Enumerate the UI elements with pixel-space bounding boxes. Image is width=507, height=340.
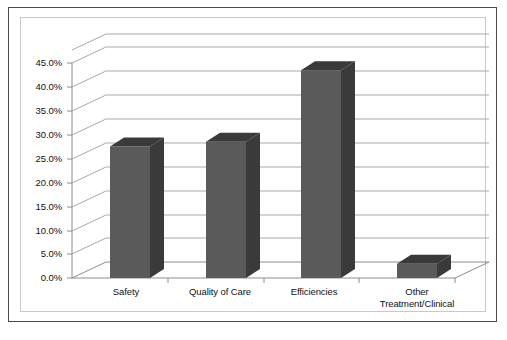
gridline-40	[72, 71, 489, 87]
gridline-35	[72, 95, 489, 111]
x-label-other-line2: Treatment/Clinical	[358, 298, 476, 310]
y-tick-label-5: 5.0%	[10, 248, 62, 259]
gridline-30	[72, 119, 489, 135]
bar-safety[interactable]	[110, 138, 164, 278]
x-label-other-treatment-clinical: Other Treatment/Clinical	[358, 286, 476, 309]
x-label-safety: Safety	[84, 286, 168, 298]
y-tick-label-0: 0.0%	[10, 272, 62, 283]
x-label-efficiencies-line1: Efficiencies	[272, 286, 356, 298]
bar-efficiencies[interactable]	[301, 61, 355, 278]
y-tick-label-10: 10.0%	[10, 225, 62, 236]
gridline-45	[72, 47, 489, 63]
bar-other-treatment-clinical[interactable]	[397, 255, 451, 278]
x-label-other-line1: Other	[358, 286, 476, 298]
bar-series	[110, 61, 451, 278]
x-axis-ticks	[168, 278, 455, 283]
y-tick-label-35: 35.0%	[10, 105, 62, 116]
y-axis-ticks	[67, 63, 72, 278]
y-tick-label-25: 25.0%	[10, 153, 62, 164]
y-tick-label-30: 30.0%	[10, 129, 62, 140]
x-label-quality-of-care-line1: Quality of Care	[174, 286, 266, 298]
x-label-efficiencies: Efficiencies	[272, 286, 356, 298]
gridline-top	[72, 34, 489, 50]
chart-plot-area: 45.0% 40.0% 35.0% 30.0% 25.0% 20.0% 15.0…	[0, 0, 507, 340]
y-tick-label-45: 45.0%	[10, 57, 62, 68]
bar-quality-of-care[interactable]	[206, 133, 260, 278]
floor-right-edge	[455, 262, 489, 278]
y-tick-label-20: 20.0%	[10, 177, 62, 188]
x-label-safety-line1: Safety	[84, 286, 168, 298]
y-tick-label-40: 40.0%	[10, 81, 62, 92]
x-label-quality-of-care: Quality of Care	[174, 286, 266, 298]
y-tick-label-15: 15.0%	[10, 201, 62, 212]
